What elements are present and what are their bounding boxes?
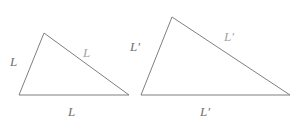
large-triangle-base-label: L′ [200, 105, 210, 118]
small-triangle-base-label: L [68, 105, 75, 118]
triangles-svg-canvas [0, 0, 302, 134]
large-triangle-left-side-label: L′ [130, 40, 140, 53]
large-triangle [141, 17, 290, 95]
small-triangle-hypotenuse-label: L [83, 46, 90, 59]
large-triangle-hypotenuse-label: L′ [224, 30, 234, 43]
small-triangle [19, 33, 129, 95]
similar-triangles-figure: L L L L′ L′ L′ [0, 0, 302, 134]
small-triangle-left-side-label: L [10, 55, 17, 68]
